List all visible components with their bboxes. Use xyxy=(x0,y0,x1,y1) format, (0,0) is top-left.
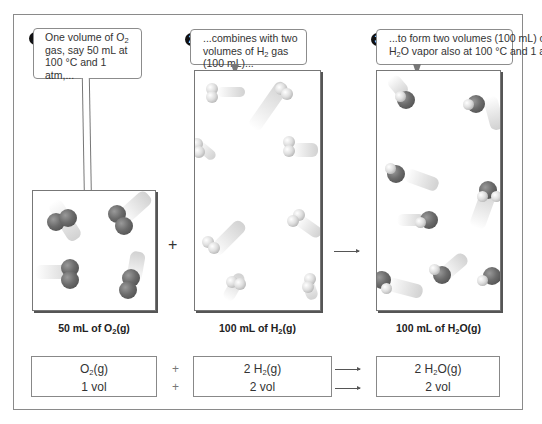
eq-arrow-1 xyxy=(335,369,360,370)
equation-box-o2: O2(g) 1 vol xyxy=(31,356,157,397)
h2-container xyxy=(194,70,321,311)
eq-h2-formula: 2 H2(g) xyxy=(194,362,331,376)
h2o-container xyxy=(376,70,501,311)
o2-container xyxy=(32,190,156,311)
eq-h2-volume: 2 vol xyxy=(194,380,331,394)
callout-step-3: ...to form two volumes (100 mL) of H2O v… xyxy=(376,29,513,65)
o2-container-label: 50 mL of O2(g) xyxy=(32,322,156,334)
reaction-arrow xyxy=(334,251,359,252)
equation-box-h2: 2 H2(g) 2 vol xyxy=(193,356,332,397)
callout-step-1: One volume of O2 gas, say 50 mL at 100 °… xyxy=(33,28,142,79)
callout-step-2: ...combines with two volumes of H2 gas (… xyxy=(190,29,307,65)
eq-plus-2: + xyxy=(172,380,179,394)
plus-operator: + xyxy=(168,236,177,254)
eq-h2o-formula: 2 H2O(g) xyxy=(377,362,499,376)
h2-container-label: 100 mL of H2(g) xyxy=(194,322,321,334)
callout-1-line2: gas, say 50 mL at xyxy=(45,44,135,57)
eq-arrow-2 xyxy=(335,388,360,389)
h2o-container-label: 100 mL of H2O(g) xyxy=(376,322,501,334)
eq-o2-formula: O2(g) xyxy=(32,362,156,376)
callout-3-line1: ...to form two volumes (100 mL) of xyxy=(389,32,506,45)
callout-1-line1: One volume of O xyxy=(45,31,124,43)
callout-1-line3: 100 °C and 1 atm,... xyxy=(45,56,135,81)
equation-box-h2o: 2 H2O(g) 2 vol xyxy=(376,356,500,397)
eq-o2-volume: 1 vol xyxy=(32,380,156,394)
eq-plus-1: + xyxy=(172,362,179,376)
eq-h2o-volume: 2 vol xyxy=(377,380,499,394)
callout-2-line1: ...combines with two xyxy=(203,32,300,45)
